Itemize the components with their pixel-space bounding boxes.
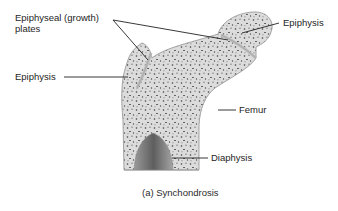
label-epiphysis-right: Epiphysis — [283, 17, 324, 28]
label-diaphysis: Diaphysis — [211, 152, 252, 163]
leader-epiphyseal-2 — [113, 20, 228, 40]
label-epiphyseal-line2: plates — [15, 23, 99, 34]
label-femur: Femur — [239, 104, 266, 115]
label-epiphyseal-line1: Epiphyseal (growth) — [15, 12, 99, 23]
label-epiphyseal-plates: Epiphyseal (growth) plates — [15, 12, 99, 34]
label-epiphysis-left: Epiphysis — [15, 71, 56, 82]
figure-caption: (a) Synchondrosis — [142, 187, 219, 198]
